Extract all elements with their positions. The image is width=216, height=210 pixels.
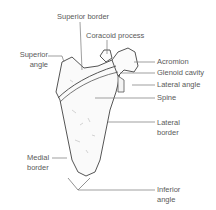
coracoid-shape [100, 50, 112, 62]
label-inferior-angle: Inferior angle [157, 185, 180, 204]
label-spine: Spine [157, 93, 176, 103]
label-medial-border: Medial border [27, 153, 49, 172]
label-acromion: Acromion [157, 57, 189, 67]
label-glenoid-cavity: Glenoid cavity [157, 68, 204, 78]
label-superior-border: Superior border [57, 12, 109, 22]
label-lateral-border: Lateral border [157, 118, 180, 137]
glenoid-shape [118, 76, 124, 92]
inferior-angle-marker [68, 178, 90, 190]
label-superior-angle: Superior angle [14, 50, 48, 69]
label-coracoid-process: Coracoid process [86, 31, 144, 41]
label-lateral-angle: Lateral angle [157, 80, 200, 90]
